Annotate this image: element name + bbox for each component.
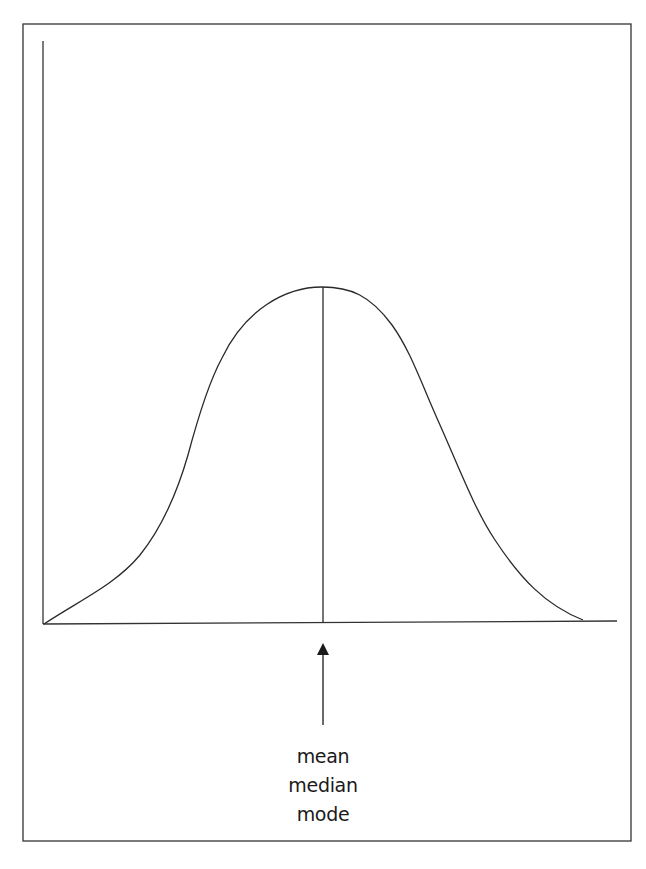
x-axis bbox=[43, 621, 617, 624]
bell-curve-figure bbox=[0, 0, 646, 869]
figure-border bbox=[23, 24, 631, 841]
arrow-up-icon bbox=[317, 643, 329, 655]
bell-curve bbox=[44, 287, 583, 624]
label-mode: mode bbox=[263, 800, 383, 829]
label-median: median bbox=[263, 771, 383, 800]
center-annotation: mean median mode bbox=[263, 742, 383, 829]
label-mean: mean bbox=[263, 742, 383, 771]
